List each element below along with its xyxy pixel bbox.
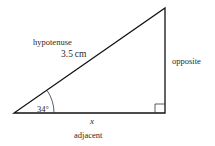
hypotenuse-label: hypotenuse: [33, 37, 72, 47]
right-triangle: [14, 8, 165, 113]
angle-label: 34°: [37, 104, 49, 114]
right-angle-marker: [155, 104, 165, 113]
adjacent-variable-label: x: [89, 116, 94, 126]
opposite-label: opposite: [172, 56, 201, 66]
triangle-diagram: hypotenuse 3.5 cm opposite 34° x adjacen…: [0, 0, 215, 146]
hypotenuse-length-label: 3.5 cm: [61, 49, 87, 59]
adjacent-label: adjacent: [74, 130, 103, 140]
